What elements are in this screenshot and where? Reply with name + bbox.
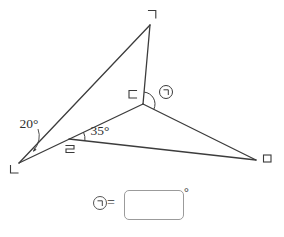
angle-arc-35 — [84, 132, 86, 141]
giyeok-glyph-icon — [94, 197, 106, 209]
vertex-label-left-nieun — [11, 166, 19, 174]
angle-label-35: 35° — [91, 123, 110, 138]
vertex-label-right-mieum — [264, 155, 272, 162]
edge-bottomleft-to-center — [19, 104, 143, 163]
vertex-label-top-giyeok — [149, 11, 156, 19]
answer-circled-symbol-icon — [93, 196, 107, 210]
degree-unit: ° — [184, 185, 189, 200]
circled-angle-symbol — [160, 86, 173, 99]
edge-segpoint-to-right — [69, 139, 256, 160]
problem-canvas: 20° 35° = ° — [0, 0, 284, 237]
equals-sign: = — [107, 195, 115, 211]
angle-label-20: 20° — [20, 116, 39, 131]
answer-input[interactable] — [124, 190, 184, 220]
geometry-figure: 20° 35° — [0, 0, 284, 185]
vertex-label-center-digeut — [129, 91, 137, 99]
point-label-rieul — [66, 146, 74, 153]
edge-center-to-right — [143, 104, 256, 160]
